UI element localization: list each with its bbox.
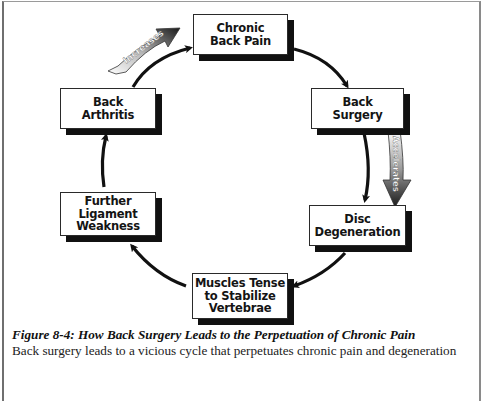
node-chronic-back-pain: Chronic Back Pain [193,14,288,55]
arrow-ligament-to-arthritis [102,136,106,187]
accelerates-label: Accelerates [391,136,401,192]
figure-caption: Figure 8-4: How Back Surgery Leads to th… [12,327,415,343]
node-back-surgery: Back Surgery [311,88,404,129]
figure-caption-body: Back surgery leads to a vicious cycle th… [12,343,456,359]
node-label: Muscles Tense to Stabilize Vertebrae [195,277,285,315]
accelerates-ribbon-arrow: Accelerates [383,130,411,207]
node-label: Further Ligament Weakness [76,195,140,233]
increases-ribbon-arrow: Increases [108,28,180,74]
node-label: Chronic Back Pain [210,22,271,47]
arrow-pain-to-surgery [294,49,347,86]
node-back-arthritis: Back Arthritis [60,88,156,129]
node-label: Back Arthritis [82,96,134,121]
node-label: Back Surgery [333,96,383,121]
arrow-muscles-to-ligament [132,246,186,286]
node-disc-degeneration: Disc Degeneration [309,205,406,246]
arrow-disc-to-muscles [294,253,345,286]
node-further-ligament-weakness: Further Ligament Weakness [60,192,156,236]
node-label: Disc Degeneration [315,213,401,238]
arrow-surgery-to-disc [364,133,368,200]
node-muscles-tense: Muscles Tense to Stabilize Vertebrae [192,273,288,319]
